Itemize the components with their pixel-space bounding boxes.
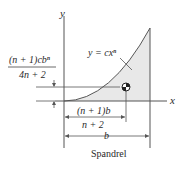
centroid-x-denominator: n + 2 bbox=[82, 119, 104, 130]
arrow-up-icon bbox=[52, 101, 56, 105]
centroid-x-numerator: (n + 1)b bbox=[77, 105, 110, 117]
caption: Spandrel bbox=[91, 148, 127, 159]
y-axis-label: y bbox=[59, 7, 65, 19]
width-label: b bbox=[104, 130, 109, 141]
centroid-icon bbox=[122, 83, 130, 91]
curve-label: y = cxⁿ bbox=[87, 47, 117, 58]
spandrel-diagram: y x y = cxⁿ (n + 1)cbⁿ 4n + 2 (n + 1)b n… bbox=[0, 0, 185, 169]
centroid-y-denominator: 4n + 2 bbox=[19, 69, 46, 80]
x-axis-label: x bbox=[169, 94, 175, 106]
shaded-area bbox=[64, 28, 150, 101]
arrow-down-icon bbox=[52, 83, 56, 87]
centroid-y-numerator: (n + 1)cbⁿ bbox=[9, 54, 51, 66]
